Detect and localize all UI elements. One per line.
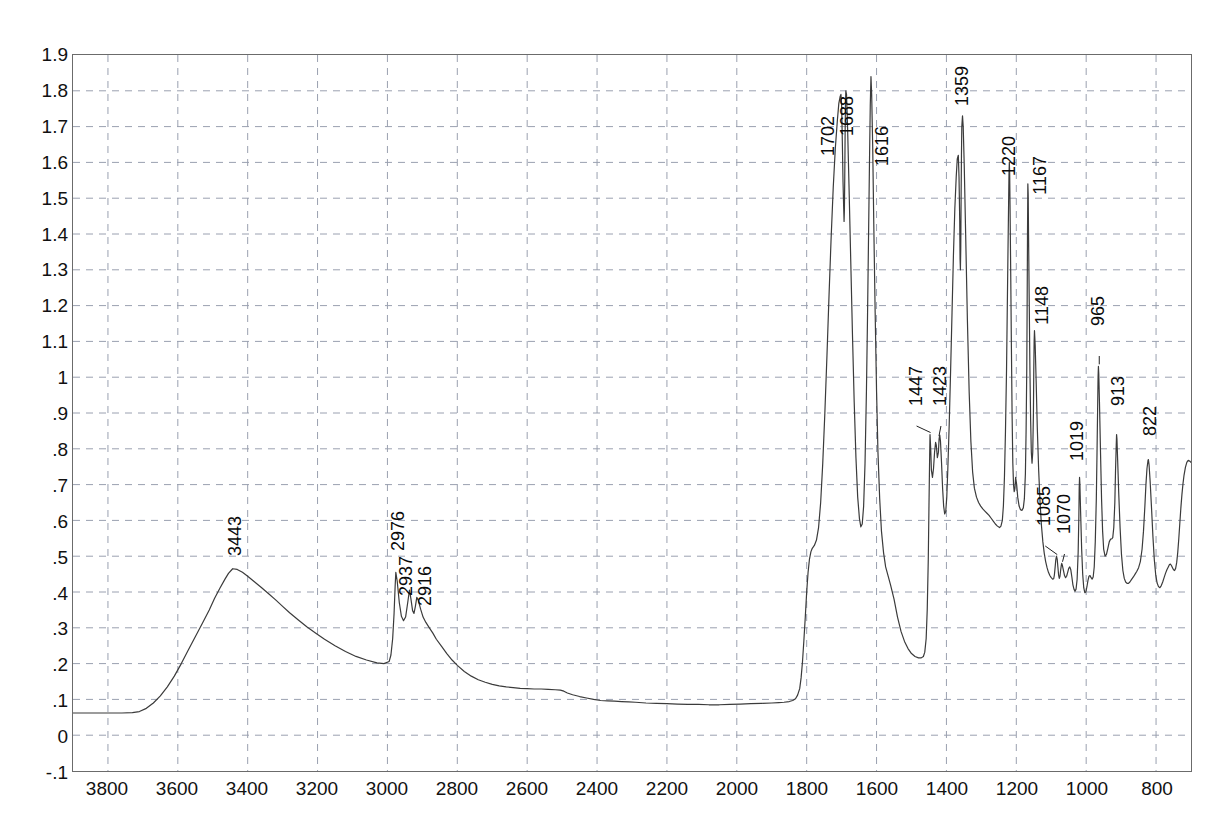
x-axis-tick-label: 1000 — [1066, 779, 1108, 798]
y-axis-tick-label: 1.9 — [42, 45, 68, 64]
x-axis-tick-label: 1800 — [786, 779, 828, 798]
y-axis-tick-label: .8 — [52, 439, 68, 458]
x-axis-tick-label: 1200 — [996, 779, 1038, 798]
x-axis-tick-label: 2600 — [506, 779, 548, 798]
y-axis-tick-label: 1.5 — [42, 188, 68, 207]
y-axis-tick-label: .7 — [52, 475, 68, 494]
x-axis-tick-label: 2200 — [646, 779, 688, 798]
y-axis-tick-label: .5 — [52, 547, 68, 566]
y-axis-tick-label: 1 — [57, 368, 68, 387]
y-axis-tick-label: -.1 — [46, 763, 68, 782]
y-axis-tick-label: 1.2 — [42, 296, 68, 315]
x-axis-tick-label: 3800 — [86, 779, 128, 798]
spectrum-trace — [73, 55, 1191, 771]
y-axis-tick-label: 1.4 — [42, 224, 68, 243]
y-axis-tick-label: .4 — [52, 583, 68, 602]
y-axis-tick-label: 1.3 — [42, 260, 68, 279]
x-axis-tick-label: 2400 — [576, 779, 618, 798]
plot-area — [72, 54, 1192, 772]
y-axis-tick-label: .2 — [52, 655, 68, 674]
y-axis-tick-label: .1 — [52, 691, 68, 710]
x-axis-tick-label: 1400 — [926, 779, 968, 798]
y-axis-tick-label: 1.6 — [42, 152, 68, 171]
x-axis-tick-label: 3200 — [296, 779, 338, 798]
x-axis-tick-label: 3400 — [226, 779, 268, 798]
y-axis-tick-label: 0 — [57, 727, 68, 746]
x-axis-tick-label: 3600 — [156, 779, 198, 798]
y-axis-tick-label: 1.7 — [42, 116, 68, 135]
y-axis-tick-label: .9 — [52, 404, 68, 423]
y-axis-tick-label: .3 — [52, 619, 68, 638]
spectrum-line — [73, 76, 1191, 713]
x-axis-tick-label: 3000 — [366, 779, 408, 798]
ir-spectrum-chart: 1.91.81.71.61.51.41.31.21.11.9.8.7.6.5.4… — [0, 0, 1232, 839]
x-axis-tick-label: 1600 — [856, 779, 898, 798]
y-axis-tick-label: .6 — [52, 511, 68, 530]
x-axis-tick-label: 2800 — [436, 779, 478, 798]
x-axis-tick-label: 2000 — [716, 779, 758, 798]
y-axis-tick-label: 1.8 — [42, 80, 68, 99]
x-axis-tick-label: 800 — [1141, 779, 1173, 798]
y-axis-tick-label: 1.1 — [42, 332, 68, 351]
